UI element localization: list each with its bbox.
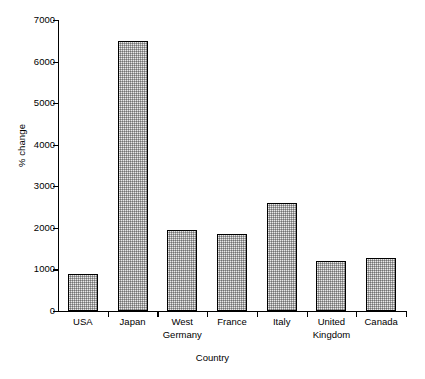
- x-category-label: West Germany: [157, 316, 207, 341]
- bar: [366, 258, 396, 311]
- y-tick-label: 7000: [34, 14, 55, 25]
- y-tick-label: 6000: [34, 56, 55, 67]
- bar: [316, 261, 346, 311]
- y-tick-label: 3000: [34, 180, 55, 191]
- y-tick-label: 5000: [34, 97, 55, 108]
- bar: [217, 234, 247, 311]
- plot-area: 01000200030004000500060007000: [58, 20, 406, 311]
- bar: [118, 41, 148, 311]
- y-axis-line: [58, 20, 59, 311]
- y-tick-label: 0: [50, 305, 55, 316]
- y-tick-label: 1000: [34, 263, 55, 274]
- x-axis-title: Country: [0, 352, 425, 363]
- y-tick-label: 2000: [34, 222, 55, 233]
- bar: [68, 274, 98, 311]
- x-category-label: United Kingdom: [307, 316, 357, 341]
- bar-chart: % change 01000200030004000500060007000 U…: [0, 0, 425, 379]
- x-tick-mark: [406, 311, 407, 317]
- bar: [267, 203, 297, 311]
- bar: [167, 230, 197, 311]
- y-tick-label: 4000: [34, 139, 55, 150]
- x-category-label: USA: [58, 316, 108, 329]
- x-category-label: Italy: [257, 316, 307, 329]
- y-axis-title: % change: [16, 101, 27, 191]
- x-category-label: France: [207, 316, 257, 329]
- x-category-label: Canada: [356, 316, 406, 329]
- x-category-label: Japan: [108, 316, 158, 329]
- x-axis-line: [58, 311, 406, 312]
